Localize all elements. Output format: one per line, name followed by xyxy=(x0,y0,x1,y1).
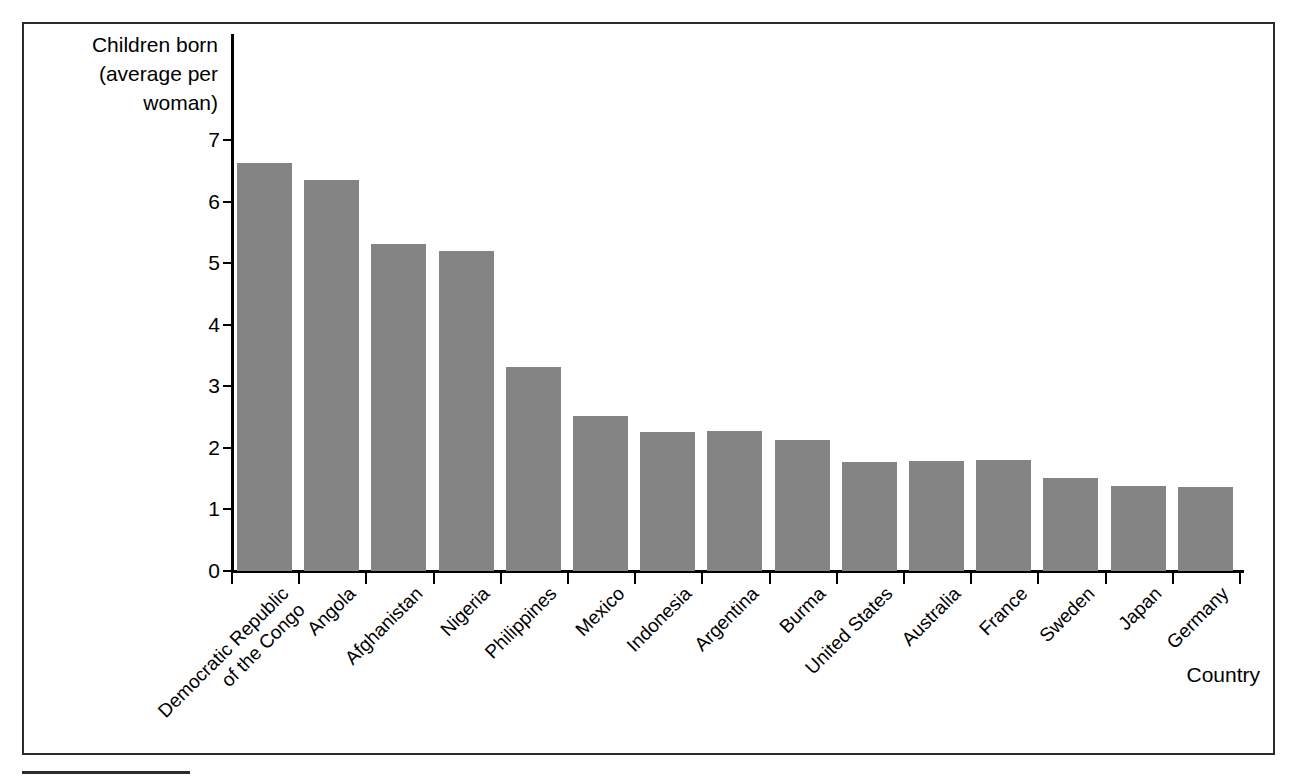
x-axis-tick-mark xyxy=(903,573,905,584)
x-axis-tick-mark xyxy=(1105,573,1107,584)
bar xyxy=(371,244,426,571)
bar xyxy=(304,180,359,571)
x-axis-tick-mark xyxy=(231,573,233,584)
y-axis-tick: 7 xyxy=(186,128,242,152)
y-axis-tick-mark xyxy=(223,447,234,449)
y-axis-tick-mark xyxy=(223,385,234,387)
bar xyxy=(976,460,1031,571)
y-axis-tick-mark xyxy=(223,324,234,326)
bar xyxy=(1043,478,1098,571)
bar xyxy=(573,416,628,571)
y-axis-tick-mark xyxy=(223,262,234,264)
x-axis-tick-mark xyxy=(701,573,703,584)
bar xyxy=(237,163,292,571)
x-axis-tick-mark xyxy=(1239,573,1241,584)
bar-chart-plot: Children born (average per woman) 012345… xyxy=(0,0,1292,779)
x-axis-tick-mark xyxy=(433,573,435,584)
y-axis-tick: 6 xyxy=(186,190,242,214)
x-axis-tick-mark xyxy=(970,573,972,584)
y-axis-tick-mark xyxy=(223,201,234,203)
x-axis-tick-mark xyxy=(365,573,367,584)
x-axis-tick-mark xyxy=(1172,573,1174,584)
bar xyxy=(506,367,561,571)
x-axis-tick-mark xyxy=(634,573,636,584)
y-axis-tick-label: 2 xyxy=(190,436,220,460)
x-axis-tick-mark xyxy=(567,573,569,584)
bar xyxy=(1111,486,1166,571)
y-axis-tick: 5 xyxy=(186,251,242,275)
y-axis-tick-mark xyxy=(223,570,234,572)
y-axis-tick-label: 7 xyxy=(190,128,220,152)
y-axis-tick-label: 3 xyxy=(190,374,220,398)
bar xyxy=(439,251,494,571)
x-axis-tick-mark xyxy=(836,573,838,584)
bar xyxy=(1178,487,1233,571)
y-axis-tick: 2 xyxy=(186,436,242,460)
y-axis-tick-label: 1 xyxy=(190,497,220,521)
y-axis-tick-label: 6 xyxy=(190,190,220,214)
y-axis-tick-mark xyxy=(223,139,234,141)
x-axis-tick-mark xyxy=(769,573,771,584)
bar xyxy=(775,440,830,571)
y-axis-line xyxy=(231,34,234,573)
x-axis-tick-mark xyxy=(298,573,300,584)
y-axis-tick: 3 xyxy=(186,374,242,398)
x-axis-tick-mark xyxy=(1037,573,1039,584)
y-axis-tick-label: 4 xyxy=(190,313,220,337)
figure-root: Children born (average per woman) 012345… xyxy=(0,0,1292,779)
x-axis-tick-mark xyxy=(500,573,502,584)
y-axis-tick: 1 xyxy=(186,497,242,521)
y-axis-tick-label: 0 xyxy=(190,559,220,583)
bar xyxy=(640,432,695,571)
x-axis-title: Country xyxy=(1100,662,1260,688)
y-axis-tick-mark xyxy=(223,508,234,510)
y-axis-tick-label: 5 xyxy=(190,251,220,275)
bar xyxy=(909,461,964,571)
bar xyxy=(707,431,762,571)
y-axis-tick: 0 xyxy=(186,559,242,583)
y-axis-tick: 4 xyxy=(186,313,242,337)
y-axis-title: Children born (average per woman) xyxy=(28,30,218,117)
bar xyxy=(842,462,897,571)
